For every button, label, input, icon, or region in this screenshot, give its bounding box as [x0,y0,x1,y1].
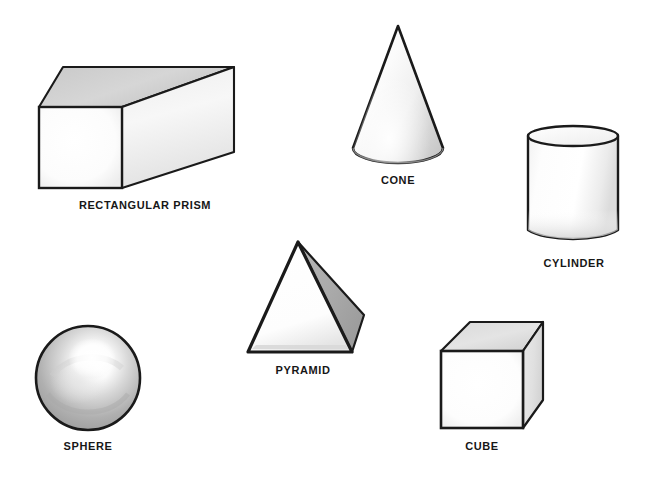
cone-icon [340,18,460,183]
pyramid-base-shade [252,345,348,349]
sphere-highlight [68,338,116,378]
cube-front-face [441,351,523,428]
shape-pyramid[interactable]: PYRAMID [238,234,378,364]
rectangular-prism-icon [0,0,260,200]
cone-highlight [353,26,443,163]
cube-icon [430,312,560,437]
shape-label-rectangular-prism: RECTANGULAR PRISM [79,199,211,212]
shape-label-cylinder: CYLINDER [543,257,604,270]
pyramid-icon [238,234,378,364]
shapes-poster: RECTANGULAR PRISM [0,0,653,479]
shape-cube[interactable]: CUBE [430,312,560,437]
sphere-icon [30,320,150,440]
shape-sphere[interactable]: SPHERE [30,320,150,440]
cylinder-top-ellipse [528,126,618,146]
shape-label-cube: CUBE [465,440,499,453]
shape-cone[interactable]: CONE [340,18,460,183]
cylinder-icon [516,118,636,258]
shape-label-pyramid: PYRAMID [276,364,331,377]
shape-label-sphere: SPHERE [64,440,113,453]
shape-label-cone: CONE [381,174,415,187]
prism-front-face [39,107,122,188]
cylinder-bottom-shade [528,210,618,239]
shape-cylinder[interactable]: CYLINDER [516,118,636,258]
shape-rectangular-prism[interactable]: RECTANGULAR PRISM [0,0,260,200]
